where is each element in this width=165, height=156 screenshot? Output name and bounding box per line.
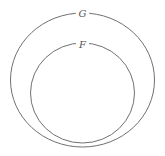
set-g-label: G — [79, 8, 87, 19]
venn-diagram: G F — [0, 0, 165, 156]
set-f-ellipse — [31, 43, 135, 143]
set-f-label: F — [78, 39, 87, 50]
